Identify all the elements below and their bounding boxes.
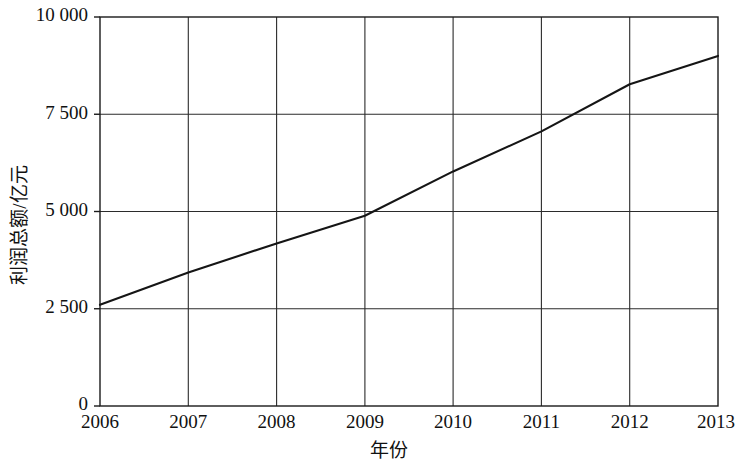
x-tick-label-2006: 2006 [81,411,119,432]
y-axis-ticks [94,17,100,406]
x-tick-label-2011: 2011 [523,411,560,432]
y-tick-label-7500: 7 500 [45,102,88,123]
chart-canvas: 10 000 7 500 5 000 2 500 0 2006 2007 200… [0,0,737,466]
y-axis-title: 利润总额/亿元 [9,165,30,284]
x-tick-label-2007: 2007 [169,411,207,432]
y-tick-label-10000: 10 000 [36,4,88,25]
x-tick-label-2008: 2008 [258,411,296,432]
x-axis-title: 年份 [370,440,408,461]
x-tick-label-2010: 2010 [434,411,472,432]
y-tick-label-2500: 2 500 [45,296,88,317]
line-chart: 10 000 7 500 5 000 2 500 0 2006 2007 200… [0,0,737,466]
x-tick-label-2012: 2012 [611,411,649,432]
x-tick-label-2009: 2009 [346,411,384,432]
y-tick-label-5000: 5 000 [45,199,88,220]
x-tick-label-2013: 2013 [697,411,735,432]
